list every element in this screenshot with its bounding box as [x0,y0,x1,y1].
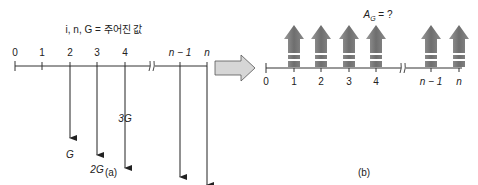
tick-label-0: 0 [12,48,18,58]
tick-label-2: 2 [67,48,73,58]
tick-label-2: 2 [318,77,324,87]
result-label: AG = ? [363,10,392,22]
block-arrow-icon [215,55,255,81]
arrow-up-icon [366,25,386,67]
tick-label-1: 1 [39,48,45,58]
tick-label-0: 0 [263,77,269,87]
given-values-label: i, n, G = 주어진 값 [66,25,143,35]
cash-flow-label-3G: 3G [118,114,131,124]
tick-label-3: 3 [346,77,352,87]
arrow-up-icon [449,25,469,67]
arrow-up-icon [311,25,331,67]
cash-flow-label-G: G [66,150,74,160]
timeline-a [15,61,207,71]
arrow-up-icon [284,25,304,67]
cash-flow-label-2G: 2G [90,165,103,175]
tick-label-n: n [456,77,462,87]
tick-label-n-minus-1: n − 1 [420,77,443,87]
tick-label-n-minus-1: n − 1 [169,48,192,58]
arrow-up-icon [339,25,359,67]
tick-label-1: 1 [291,77,297,87]
tick-label-4: 4 [122,48,128,58]
uniform-arrows-b [284,25,469,67]
arrow-up-icon [421,25,441,67]
tick-label-4: 4 [373,77,379,87]
caption-a: (a) [105,167,117,178]
caption-b: (b) [358,167,370,178]
tick-label-n: n [204,48,210,58]
break-icon [149,61,154,71]
tick-label-3: 3 [94,48,100,58]
break-icon [400,63,405,73]
